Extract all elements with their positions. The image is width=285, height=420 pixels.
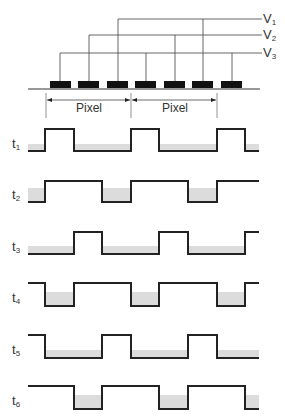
electrode bbox=[221, 81, 242, 88]
shaded-region bbox=[245, 350, 259, 358]
shaded-region bbox=[74, 350, 102, 358]
shaded-region bbox=[45, 350, 74, 358]
v2-label: V2 bbox=[263, 28, 276, 43]
shaded-region bbox=[45, 246, 74, 254]
voltage-bus-lines bbox=[60, 19, 262, 81]
v3-label: V3 bbox=[263, 46, 276, 61]
shaded-region bbox=[74, 395, 102, 409]
shaded-region bbox=[217, 350, 245, 358]
arrowhead-left-icon bbox=[132, 98, 137, 102]
electrode bbox=[107, 81, 128, 88]
shaded-region bbox=[217, 292, 245, 306]
shaded-region bbox=[28, 144, 45, 151]
shaded-region bbox=[159, 350, 188, 358]
t6-label: t6 bbox=[12, 394, 20, 409]
signal-trace bbox=[28, 386, 259, 409]
t5-label: t5 bbox=[12, 343, 20, 358]
waveform-t3 bbox=[28, 232, 259, 254]
v1-label: V1 bbox=[263, 12, 276, 27]
shaded-region bbox=[131, 350, 159, 358]
electrode bbox=[164, 81, 185, 88]
shaded-region bbox=[102, 188, 131, 202]
shaded-region bbox=[159, 395, 188, 409]
signal-trace bbox=[28, 181, 259, 202]
electrode bbox=[192, 81, 213, 88]
shaded-region bbox=[131, 292, 159, 306]
shaded-region bbox=[245, 144, 259, 151]
electrode-timing-diagram bbox=[0, 0, 285, 420]
shaded-region bbox=[102, 246, 131, 254]
shaded-region bbox=[45, 292, 74, 306]
shaded-region bbox=[28, 246, 45, 254]
arrowhead-right-icon bbox=[125, 98, 130, 102]
shaded-region bbox=[28, 188, 45, 202]
t2-label: t2 bbox=[12, 188, 20, 203]
signal-trace bbox=[28, 129, 259, 151]
waveform-t6 bbox=[28, 386, 259, 409]
waveform-t2 bbox=[28, 181, 259, 202]
shaded-region bbox=[188, 144, 217, 151]
electrode-array bbox=[28, 81, 260, 89]
waveform-t4 bbox=[28, 283, 259, 306]
shaded-region bbox=[131, 246, 159, 254]
shaded-region bbox=[188, 246, 217, 254]
waveform-t1 bbox=[28, 129, 259, 151]
pixel-dimension-markers bbox=[46, 93, 217, 118]
electrode bbox=[135, 81, 156, 88]
pixel-label-right: Pixel bbox=[162, 102, 188, 114]
shaded-region bbox=[159, 144, 188, 151]
arrowhead-right-icon bbox=[211, 98, 216, 102]
shaded-region bbox=[217, 246, 245, 254]
waveform-panel bbox=[28, 129, 259, 409]
shaded-region bbox=[188, 188, 217, 202]
arrowhead-left-icon bbox=[47, 98, 52, 102]
pixel-label-left: Pixel bbox=[76, 102, 102, 114]
shaded-region bbox=[74, 144, 102, 151]
t1-label: t1 bbox=[12, 137, 20, 152]
t4-label: t4 bbox=[12, 291, 20, 306]
shaded-region bbox=[102, 144, 131, 151]
electrode bbox=[78, 81, 99, 88]
t3-label: t3 bbox=[12, 240, 20, 255]
waveform-t5 bbox=[28, 335, 259, 358]
shaded-region bbox=[245, 395, 259, 409]
electrode bbox=[50, 81, 71, 88]
